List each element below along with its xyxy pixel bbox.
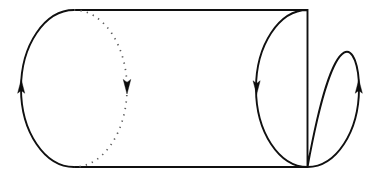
cylinder-diagram-canvas: Oriented cylinder with boundary circles xyxy=(0,0,376,180)
left-circle-dotted-back-half xyxy=(74,10,127,167)
left-circle-down-arrow-icon xyxy=(123,79,131,94)
cylinder-figure xyxy=(0,0,376,180)
left-circle-solid-front-half xyxy=(21,10,74,167)
right-circle-outline xyxy=(256,10,359,167)
